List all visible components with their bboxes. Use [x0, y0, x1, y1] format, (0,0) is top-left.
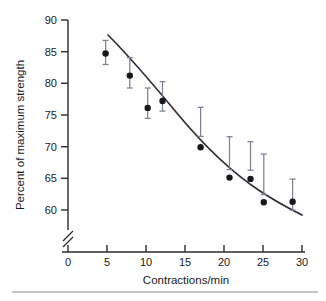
data-point [127, 72, 133, 78]
y-tick-label-85: 85 [45, 46, 57, 58]
error-bar [145, 88, 151, 118]
data-point [247, 176, 253, 182]
error-bar [248, 142, 254, 171]
y-tick-label-90: 90 [45, 14, 57, 26]
scatter-chart: 90 85 80 75 70 65 60 0 5 10 15 20 25 30 … [0, 0, 326, 301]
error-bar [198, 107, 204, 136]
data-point [226, 174, 232, 180]
y-tick-label-60: 60 [45, 204, 57, 216]
error-bar [160, 82, 166, 111]
data-point [197, 144, 203, 150]
x-axis-title: Contractions/min [143, 274, 229, 286]
x-tick-label-5: 5 [104, 256, 110, 268]
x-tick-label-30: 30 [296, 256, 308, 268]
data-point [289, 199, 295, 205]
error-bars-group [103, 40, 296, 210]
fitted-curve [108, 35, 302, 215]
data-point [145, 105, 151, 111]
data-points-group [102, 50, 295, 205]
x-tick-label-15: 15 [179, 256, 191, 268]
error-bar [227, 137, 233, 170]
y-axis-title: Percent of maximum strength [14, 60, 26, 210]
y-tick-label-80: 80 [45, 77, 57, 89]
figure-panel: 90 85 80 75 70 65 60 0 5 10 15 20 25 30 … [0, 0, 326, 301]
data-point [261, 199, 267, 205]
data-point [159, 98, 165, 104]
x-tick-label-25: 25 [257, 256, 269, 268]
y-tick-label-65: 65 [45, 172, 57, 184]
x-tick-label-20: 20 [218, 256, 230, 268]
y-axis-break-icon [63, 231, 73, 247]
error-bar [290, 179, 296, 210]
x-tick-label-0: 0 [65, 256, 71, 268]
y-tick-label-70: 70 [45, 141, 57, 153]
x-tick-marks [68, 245, 302, 252]
error-bar [261, 154, 267, 195]
data-point [102, 50, 108, 56]
x-tick-label-10: 10 [140, 256, 152, 268]
y-tick-marks [61, 20, 68, 210]
y-tick-label-75: 75 [45, 109, 57, 121]
